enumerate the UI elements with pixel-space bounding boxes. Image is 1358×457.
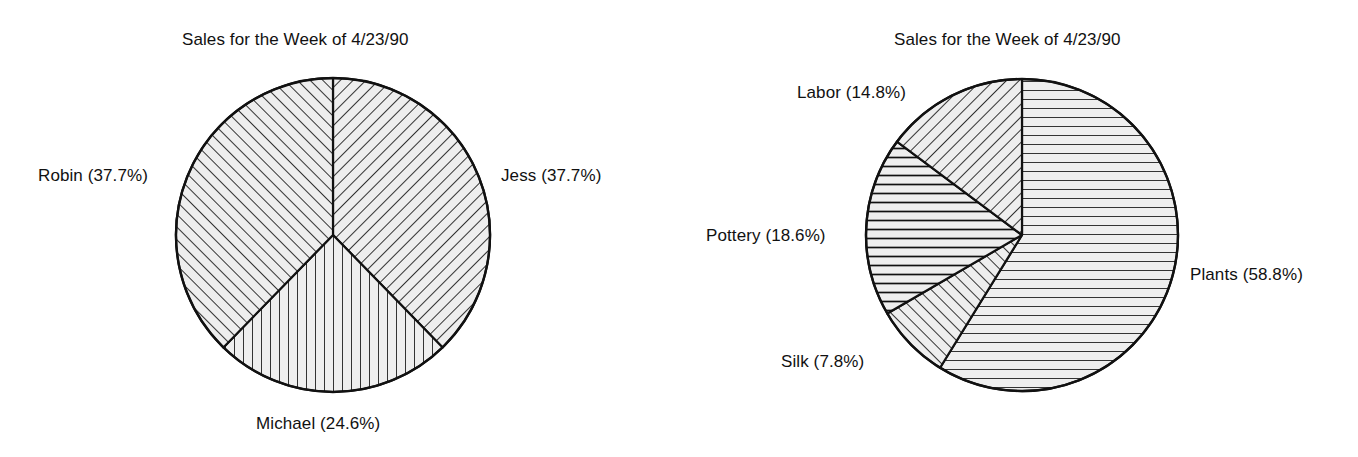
left-pie-chart-panel: Sales for the Week of 4/23/90 Robin (37.… (0, 0, 679, 457)
left-pie-chart-graphic (0, 0, 679, 457)
pie-label-labor: Labor (14.8%) (797, 83, 906, 103)
pie-label-silk: Silk (7.8%) (781, 352, 864, 372)
pie-label-michael: Michael (24.6%) (256, 414, 380, 434)
pie-label-jess: Jess (37.7%) (501, 166, 601, 186)
right-pie-chart-panel: Sales for the Week of 4/23/90 (679, 0, 1358, 457)
pie-label-pottery: Pottery (18.6%) (706, 226, 826, 246)
pie-label-robin: Robin (37.7%) (38, 166, 148, 186)
pie-label-plants: Plants (58.8%) (1190, 265, 1303, 285)
